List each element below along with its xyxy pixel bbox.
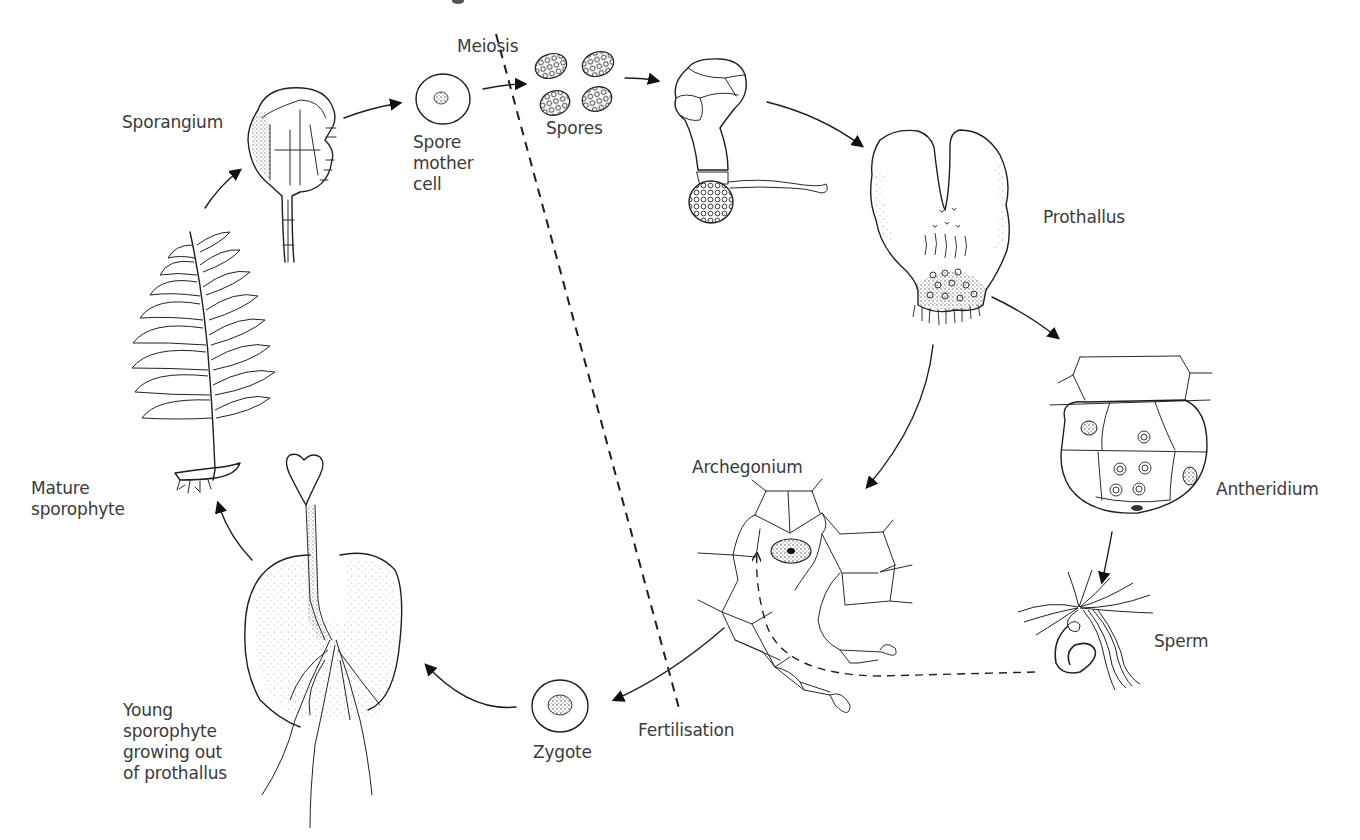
cycle-arrows <box>205 78 1112 707</box>
label-antheridium: Antheridium <box>1216 479 1319 500</box>
sporangium-drawing <box>248 88 336 262</box>
arrow-mother-cell-to-spores <box>483 84 525 89</box>
arrow-archegonium-to-zygote <box>614 628 724 700</box>
young-sporophyte-drawing <box>245 454 402 828</box>
antheridium-drawing <box>1050 356 1212 513</box>
arrow-germination-to-prothallus <box>767 102 862 146</box>
label-spore-mother-cell: Spore mother cell <box>413 132 474 195</box>
label-fertilisation: Fertilisation <box>638 720 734 741</box>
fern-life-cycle-diagram: Meiosis Sporangium Spore mother cell Spo… <box>0 0 1360 840</box>
label-young-sporophyte: Young sporophyte growing out of prothall… <box>123 700 227 784</box>
arrow-sperm-to-egg <box>757 553 1035 676</box>
arrow-antheridium-to-sperm <box>1102 532 1112 582</box>
label-mature-sporophyte: Mature sporophyte <box>31 478 125 520</box>
arrow-spores-to-germination <box>625 78 658 81</box>
prothallus-drawing <box>871 130 1010 325</box>
label-prothallus: Prothallus <box>1043 207 1125 228</box>
arrow-prothallus-to-archegonium <box>867 345 933 487</box>
zygote-drawing <box>532 680 588 732</box>
label-archegonium: Archegonium <box>692 457 803 478</box>
edge-fragment <box>452 0 464 4</box>
arrow-young-to-mature <box>218 503 252 560</box>
archegonium-drawing <box>698 479 912 713</box>
mature-sporophyte-drawing <box>132 232 275 493</box>
arrow-mature-to-sporangium <box>205 170 240 208</box>
label-meiosis: Meiosis <box>457 36 518 57</box>
sperm-drawing <box>1018 570 1153 690</box>
spore-mother-cell-drawing <box>416 74 470 124</box>
germinating-spore-drawing <box>675 59 827 223</box>
label-spores: Spores <box>546 118 603 139</box>
label-sperm: Sperm <box>1154 631 1208 652</box>
spores-drawing <box>532 48 617 119</box>
arrow-zygote-to-young-sporophyte <box>426 665 516 707</box>
label-zygote: Zygote <box>533 742 592 763</box>
label-sporangium: Sporangium <box>122 112 223 133</box>
arrow-prothallus-to-antheridium <box>992 297 1058 338</box>
arrow-sporangium-to-mother-cell <box>344 103 400 118</box>
